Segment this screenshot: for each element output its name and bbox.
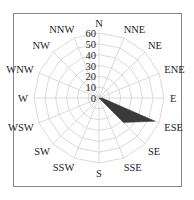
direction-label-ssw: SSW (53, 162, 75, 173)
direction-label-nnw: NNW (49, 24, 74, 35)
radial-tick-label: 30 (86, 61, 97, 72)
direction-label-nne: NNE (124, 24, 146, 35)
radial-tick-label: 60 (86, 28, 97, 39)
radial-tick-label: 50 (86, 39, 97, 50)
direction-label-nw: NW (32, 40, 50, 51)
direction-label-s: S (96, 168, 102, 179)
direction-label-e: E (170, 93, 176, 104)
direction-label-sse: SSE (124, 162, 142, 173)
radial-tick-label: 20 (86, 71, 97, 82)
direction-label-wnw: WNW (6, 64, 33, 75)
radial-tick-labels: 0102030405060 (86, 28, 97, 104)
direction-label-wsw: WSW (8, 122, 34, 133)
direction-label-ne: NE (148, 40, 162, 51)
direction-label-ese: ESE (164, 122, 183, 133)
radial-tick-label: 10 (86, 82, 97, 93)
direction-label-w: W (18, 93, 28, 104)
direction-label-se: SE (148, 146, 160, 157)
radial-tick-label: 40 (86, 50, 97, 61)
direction-label-n: N (95, 18, 103, 29)
wind-rose-chart: 0102030405060 NNNENEENEEESESESSESSSWSWWS… (0, 0, 194, 200)
radial-tick-label: 0 (91, 93, 96, 104)
direction-label-sw: SW (34, 146, 50, 157)
direction-label-ene: ENE (164, 64, 184, 75)
